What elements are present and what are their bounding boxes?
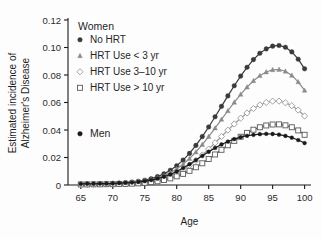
data-point-circle [213,146,217,150]
data-point-circle [98,182,102,186]
data-point-circle [85,182,89,186]
data-point-square [174,174,179,179]
alzheimers-incidence-line-chart: 00.020.040.060.080.100.12657075808590951… [0,0,322,239]
data-point-square [257,125,262,130]
data-point-circle [252,133,256,137]
data-point-triangle [290,73,295,77]
data-point-circle [92,182,96,186]
data-point-circle [302,67,307,72]
y-tick-label: 0 [56,180,61,191]
series-no-hrt [78,43,306,186]
data-point-triangle [78,53,83,57]
y-axis-title-line1: Estimated incidence of [7,52,18,153]
data-point-square [200,161,205,166]
data-point-circle [264,47,269,52]
x-tick-label: 85 [203,192,214,203]
x-axis-title: Age [181,216,199,227]
data-point-circle [219,104,224,109]
data-point-circle [136,180,140,184]
data-point-circle [226,94,231,99]
data-point-square [168,176,173,181]
x-tick-label: 65 [76,192,87,203]
chart-figure: 00.020.040.060.080.100.12657075808590951… [0,0,322,239]
data-point-circle [283,45,288,50]
data-point-circle [78,132,83,137]
data-point-circle [296,138,300,142]
x-tick-label: 80 [171,192,182,203]
data-point-circle [277,133,281,137]
data-point-square [283,123,288,128]
data-point-circle [156,177,160,181]
y-tick-label: 0.10 [43,42,62,53]
data-point-circle [238,74,243,79]
y-tick-label: 0.02 [43,152,62,163]
series-hrt-use-10-yr [78,122,307,187]
data-point-circle [78,38,83,43]
legend-item-label: HRT Use 3–10 yr [90,66,168,77]
data-point-diamond [257,102,263,108]
series-line [81,101,305,184]
data-point-circle [258,51,263,56]
data-point-square [193,165,198,170]
data-point-circle [79,182,83,186]
x-tick-label: 100 [297,192,313,203]
data-point-circle [290,50,295,55]
legend-group-title-women: Women [78,20,114,32]
data-point-circle [104,182,108,186]
legend-item-label: No HRT [90,34,126,45]
data-point-circle [277,43,282,48]
series-men [79,132,307,186]
data-point-circle [188,162,192,166]
data-point-square [187,168,192,173]
data-point-circle [245,134,249,138]
data-point-square [78,85,83,90]
data-point-square [251,127,256,132]
y-tick-label: 0.04 [43,125,62,136]
data-point-circle [303,141,307,145]
x-tick-label: 90 [235,192,246,203]
data-point-circle [200,154,204,158]
data-point-circle [251,57,256,62]
data-point-circle [111,182,115,186]
data-point-circle [271,132,275,136]
data-point-circle [270,44,275,49]
data-point-square [264,123,269,128]
data-point-circle [168,173,172,177]
data-point-circle [124,181,128,185]
data-point-square [296,128,301,133]
legend-group-title-men: Men [90,127,111,139]
y-tick-label: 0.06 [43,97,62,108]
chart-legend: WomenNo HRTHRT Use < 3 yrHRT Use 3–10 yr… [77,20,168,139]
data-point-circle [245,65,250,70]
data-point-circle [232,83,237,88]
y-tick-label: 0.08 [43,70,62,81]
data-point-square [213,152,218,157]
data-point-diamond [270,98,276,104]
data-point-circle [187,151,192,156]
x-tick-label: 75 [139,192,150,203]
data-point-circle [206,125,211,130]
data-point-circle [213,115,218,120]
data-series [78,43,308,187]
data-point-circle [181,166,185,170]
data-point-diamond [263,99,269,105]
data-point-circle [149,178,153,182]
data-point-circle [232,137,236,141]
data-point-square [302,132,307,137]
data-point-square [206,157,211,162]
data-point-circle [284,134,288,138]
series-hrt-use-3-10-yr [78,98,308,187]
data-point-circle [239,135,243,139]
data-point-square [270,122,275,127]
data-point-circle [258,132,262,136]
legend-item-label: HRT Use < 3 yr [90,50,159,61]
data-point-circle [220,143,224,147]
y-tick-label: 0.12 [43,15,62,26]
data-point-square [277,122,282,127]
data-point-circle [226,140,230,144]
data-point-circle [194,143,199,148]
data-point-diamond [77,69,83,75]
data-point-circle [290,136,294,140]
data-point-square [181,171,186,176]
legend-item-label: HRT Use > 10 yr [90,82,165,93]
